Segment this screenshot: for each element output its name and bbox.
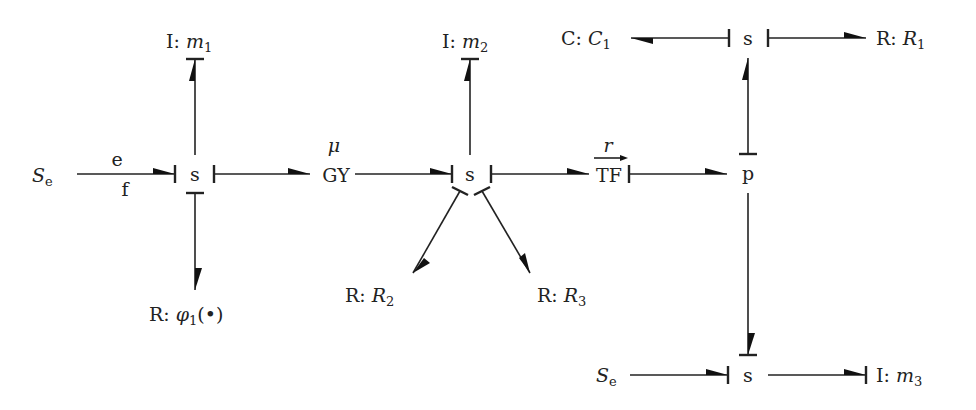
transformer-direction-arrowhead-icon bbox=[620, 155, 628, 161]
bond-s3-r-r1 bbox=[768, 29, 866, 47]
resistor-phi1-label: R: φ1(•) bbox=[149, 303, 223, 328]
effort-annotation: e bbox=[111, 148, 122, 170]
bond-s2-r-r2 bbox=[413, 187, 468, 273]
transformer-parameter-r: r bbox=[603, 134, 614, 156]
junction-s2: s bbox=[465, 163, 475, 185]
bond-s1-gy bbox=[214, 165, 310, 183]
bond-se2-s4 bbox=[630, 366, 728, 384]
inertia-m1-label: I: m1 bbox=[166, 30, 212, 55]
flow-annotation: f bbox=[121, 178, 130, 200]
junction-p: p bbox=[742, 162, 754, 184]
bond-gy-s2 bbox=[355, 165, 452, 183]
junction-s3: s bbox=[743, 27, 753, 49]
bond-s2-i-m2 bbox=[461, 59, 479, 155]
bond-s4-i-m3 bbox=[768, 366, 866, 384]
source-effort-1-label: Se bbox=[32, 164, 53, 189]
capacitor-c1-label: C: C1 bbox=[561, 27, 611, 52]
bond-p-s4 bbox=[739, 193, 757, 355]
bond-s3-c-c1 bbox=[631, 29, 729, 47]
gyrator-parameter-mu: μ bbox=[328, 134, 340, 156]
resistor-r2-label: R: R2 bbox=[345, 284, 394, 309]
bond-s1-i-m1 bbox=[186, 59, 204, 155]
bond-graph-diagram: Se e f s I: m1 R: φ1(•) μ GY s I: m2 R: … bbox=[0, 0, 976, 410]
source-effort-2-label: Se bbox=[596, 364, 617, 389]
junction-s1: s bbox=[190, 163, 200, 185]
bond-s2-tf bbox=[491, 165, 589, 183]
bond-p-s3 bbox=[739, 58, 757, 154]
bond-tf-p bbox=[629, 165, 727, 183]
junction-s4: s bbox=[743, 364, 753, 386]
resistor-r3-label: R: R3 bbox=[537, 284, 586, 309]
resistor-r1-label: R: R1 bbox=[876, 27, 925, 52]
transformer-node: TF bbox=[596, 164, 622, 186]
inertia-m3-label: I: m3 bbox=[876, 364, 922, 389]
bond-s1-r-phi1 bbox=[186, 193, 204, 290]
gyrator-node: GY bbox=[322, 164, 350, 186]
bond-s2-r-r3 bbox=[474, 187, 530, 273]
inertia-m2-label: I: m2 bbox=[442, 30, 488, 55]
